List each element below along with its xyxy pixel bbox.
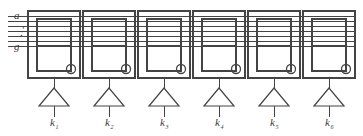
digit-driver-4 <box>204 88 234 106</box>
bus-label-a: a <box>14 9 20 21</box>
seven-segment-glyph-5 <box>257 19 291 71</box>
digit-driver-1 <box>39 88 69 106</box>
digit-driver-2 <box>94 88 124 106</box>
figure-canvas: ag⋮k1k2k3k4k5k6 <box>0 0 363 136</box>
digit-driver-6 <box>314 88 344 106</box>
digit-select-label-2: k2 <box>105 116 113 130</box>
digit-select-label-3: k3 <box>160 116 168 130</box>
bus-ellipsis: ⋮ <box>16 25 27 37</box>
seven-segment-glyph-6 <box>312 19 346 71</box>
seven-segment-glyph-2 <box>92 19 126 71</box>
bus-label-g: g <box>14 40 20 52</box>
digit-driver-3 <box>149 88 179 106</box>
digit-select-label-5: k5 <box>270 116 278 130</box>
display-multiplex-circuit-diagram: ag⋮k1k2k3k4k5k6 <box>0 0 363 136</box>
seven-segment-glyph-3 <box>147 19 181 71</box>
digit-select-label-4: k4 <box>215 116 223 130</box>
seven-segment-glyph-4 <box>202 19 236 71</box>
digit-select-label-6: k6 <box>325 116 333 130</box>
seven-segment-glyph-1 <box>37 19 71 71</box>
digit-select-label-1: k1 <box>50 116 58 130</box>
digit-driver-5 <box>259 88 289 106</box>
